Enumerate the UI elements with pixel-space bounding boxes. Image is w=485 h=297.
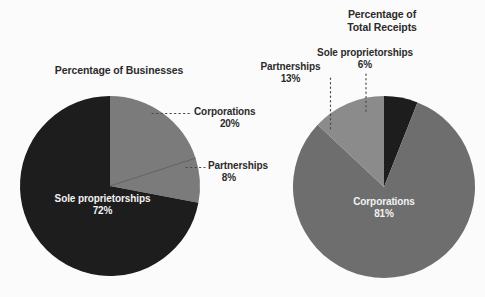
left-inner-label-sole-proprietorships: Sole proprietorships 72%	[20, 193, 185, 217]
right-inner-label-corporations-value: 81%	[321, 208, 447, 220]
left-chart-title: Percentage of Businesses	[34, 64, 204, 77]
left-callout-corporations: Corporations 20%	[194, 106, 256, 130]
right-pie-chart	[293, 96, 475, 278]
right-chart-title: Percentage of Total Receipts	[317, 8, 447, 34]
right-callout-partnerships-name: Partnerships	[249, 61, 332, 73]
right-inner-label-corporations: Corporations 81%	[321, 196, 447, 220]
left-inner-label-sole-value: 72%	[20, 205, 185, 217]
left-callout-partnerships: Partnerships 8%	[208, 160, 268, 184]
two-pie-chart-figure	[0, 0, 485, 297]
right-callout-sole-name: Sole proprietorships	[309, 47, 421, 59]
left-callout-corporations-name: Corporations	[194, 106, 256, 118]
left-inner-label-sole-name: Sole proprietorships	[20, 193, 185, 205]
left-callout-partnerships-name: Partnerships	[208, 160, 268, 172]
left-pie-chart	[20, 96, 200, 276]
right-callout-partnerships: Partnerships 13%	[249, 61, 332, 85]
right-chart-title-line2: Total Receipts	[317, 21, 447, 34]
left-callout-corporations-value: 20%	[194, 118, 256, 130]
right-callout-partnerships-value: 13%	[249, 73, 332, 85]
right-chart-title-line1: Percentage of	[317, 8, 447, 21]
left-callout-partnerships-value: 8%	[208, 172, 268, 184]
right-inner-label-corporations-name: Corporations	[321, 196, 447, 208]
